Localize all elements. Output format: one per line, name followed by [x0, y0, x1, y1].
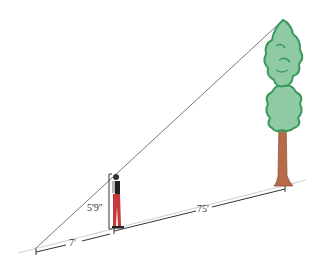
distance-label: 75' [197, 203, 209, 214]
person-head [113, 174, 119, 180]
shadow-length-label: 7' [69, 237, 76, 248]
tree-foliage-upper [264, 20, 302, 86]
similar-triangles-diagram: 5'9" 7' 75' [0, 0, 334, 266]
person-pants [113, 194, 121, 226]
height-dimension [109, 174, 112, 229]
tree-foliage-lower [266, 86, 301, 132]
person-height-label: 5'9" [87, 202, 103, 213]
person [112, 174, 124, 229]
person-vest [115, 181, 120, 194]
ground-line [18, 180, 306, 253]
sight-line [35, 20, 283, 249]
tree [264, 20, 302, 186]
